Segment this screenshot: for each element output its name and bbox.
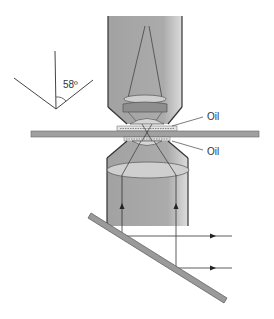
oil-label-top: Oil xyxy=(207,111,219,122)
right-arrow-icon xyxy=(210,234,216,239)
right-arrow-icon xyxy=(210,266,216,271)
aperture-angle-diagram: 58º xyxy=(14,51,93,109)
meniscus-lens xyxy=(123,102,167,112)
mirror xyxy=(88,213,227,303)
specimen-slide-assembly xyxy=(31,124,259,141)
condenser-lens xyxy=(107,162,189,178)
microscope-diagram: 58º Oil Oil xyxy=(0,0,274,319)
condenser xyxy=(107,141,189,226)
oil-label-bottom: Oil xyxy=(207,146,219,157)
angle-label: 58º xyxy=(63,79,78,90)
objective-lens xyxy=(108,16,182,124)
